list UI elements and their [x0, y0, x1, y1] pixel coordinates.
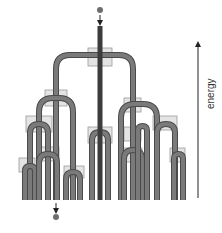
energy-cascade-diagram — [0, 0, 222, 233]
energy-axis-label: energy — [205, 79, 217, 109]
output-particle-icon — [53, 214, 59, 220]
input-particle-icon — [97, 7, 103, 13]
